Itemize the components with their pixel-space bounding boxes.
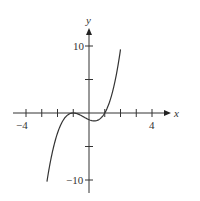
y-tick-label-min: −10 [66, 174, 84, 186]
x-tick-label-min: −4 [16, 119, 28, 131]
x-tick-label-max: 4 [149, 119, 155, 131]
y-tick-label-max: 10 [73, 40, 85, 52]
y-axis-label: y [85, 14, 91, 26]
y-axis-arrow-icon [86, 28, 92, 35]
cubic-graph: x y −4 4 10 −10 [0, 0, 200, 201]
x-axis-label: x [173, 107, 179, 119]
x-axis-arrow-icon [164, 110, 171, 116]
